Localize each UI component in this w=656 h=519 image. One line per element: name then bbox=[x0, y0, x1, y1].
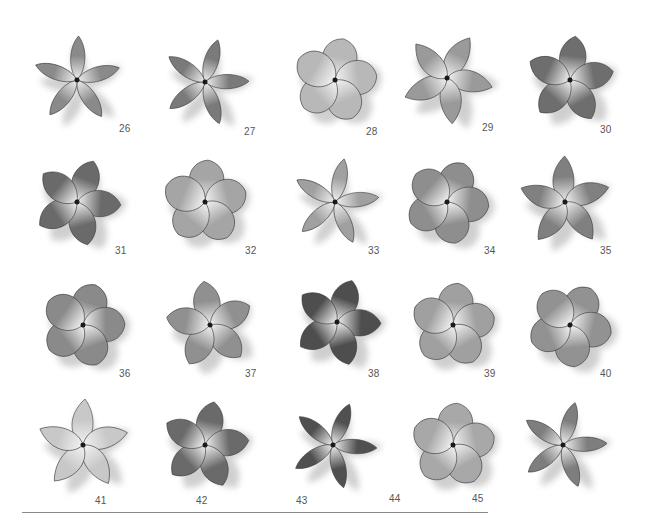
flower-42 bbox=[150, 393, 260, 498]
flower-number-label: 42 bbox=[196, 495, 208, 506]
flower-34 bbox=[392, 150, 502, 255]
flower-38 bbox=[282, 270, 392, 375]
flower-33 bbox=[280, 150, 390, 255]
flower-icon bbox=[392, 26, 502, 131]
flower-icon bbox=[150, 150, 260, 255]
flower-40 bbox=[515, 273, 625, 378]
flower-number-label: 38 bbox=[368, 368, 380, 379]
flower-icon bbox=[22, 28, 132, 133]
flower-number-label: 29 bbox=[482, 122, 494, 133]
flower-32 bbox=[150, 150, 260, 255]
flower-icon bbox=[28, 273, 138, 378]
flower-44 bbox=[398, 393, 508, 498]
flower-icon bbox=[515, 273, 625, 378]
flower-number-label: 33 bbox=[368, 245, 380, 256]
flower-45 bbox=[508, 393, 618, 498]
flower-number-label: 27 bbox=[244, 126, 256, 137]
flower-26 bbox=[22, 28, 132, 133]
flower-number-label: 32 bbox=[245, 245, 257, 256]
flower-number-label: 28 bbox=[366, 126, 378, 137]
flower-icon bbox=[155, 273, 265, 378]
flower-icon bbox=[510, 150, 620, 255]
flower-number-label: 40 bbox=[600, 368, 612, 379]
flower-icon bbox=[278, 393, 388, 498]
flower-number-label: 36 bbox=[119, 368, 131, 379]
flower-icon bbox=[392, 150, 502, 255]
flower-icon bbox=[150, 393, 260, 498]
flower-27 bbox=[150, 30, 260, 135]
flower-number-label: 30 bbox=[600, 124, 612, 135]
flower-icon bbox=[398, 273, 508, 378]
flower-icon bbox=[280, 150, 390, 255]
flower-number-label: 41 bbox=[95, 495, 107, 506]
flower-number-label: 39 bbox=[484, 368, 496, 379]
flower-number-label: 43 bbox=[296, 495, 308, 506]
flower-number-label: 35 bbox=[600, 245, 612, 256]
flower-41 bbox=[28, 393, 138, 498]
flower-31 bbox=[22, 150, 132, 255]
flower-icon bbox=[398, 393, 508, 498]
flower-43 bbox=[278, 393, 388, 498]
flower-icon bbox=[22, 150, 132, 255]
flower-number-label: 44 bbox=[389, 493, 401, 504]
flower-30 bbox=[515, 28, 625, 133]
flower-39 bbox=[398, 273, 508, 378]
flower-number-label: 37 bbox=[245, 368, 257, 379]
flower-icon bbox=[150, 30, 260, 135]
flower-28 bbox=[280, 28, 390, 133]
flower-icon bbox=[282, 270, 392, 375]
flower-37 bbox=[155, 273, 265, 378]
flower-icon bbox=[508, 393, 618, 498]
flower-icon bbox=[515, 28, 625, 133]
flower-35 bbox=[510, 150, 620, 255]
flower-icon bbox=[28, 393, 138, 498]
flower-number-label: 34 bbox=[484, 245, 496, 256]
flower-number-label: 26 bbox=[119, 123, 131, 134]
flower-icon bbox=[280, 28, 390, 133]
bottom-rule bbox=[22, 512, 488, 513]
flower-number-label: 45 bbox=[472, 493, 484, 504]
flower-36 bbox=[28, 273, 138, 378]
flower-29 bbox=[392, 26, 502, 131]
flower-number-label: 31 bbox=[115, 245, 127, 256]
